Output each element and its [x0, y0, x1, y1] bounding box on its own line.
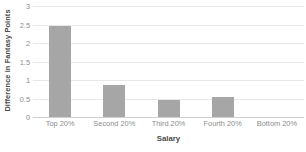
x-axis-tick-label: Fourth 20%: [204, 119, 242, 128]
x-axis-tick-labels: Top 20%Second 20%Third 20%Fourth 20%Bott…: [33, 119, 304, 133]
x-axis-tick-label: Second 20%: [93, 119, 135, 128]
bar-chart: Difference in Fantasy Points 00.511.522.…: [0, 0, 306, 152]
y-axis-tick-label: 1: [26, 76, 30, 85]
y-axis-tick-labels: 00.511.522.53: [13, 0, 32, 124]
y-axis-tick-label: 2.5: [20, 20, 30, 29]
bar: [212, 97, 234, 117]
bar: [158, 100, 180, 117]
x-axis-line: [33, 117, 304, 118]
bar: [49, 26, 71, 117]
gridline: [33, 43, 304, 44]
y-axis-tick-label: 0.5: [20, 94, 30, 103]
y-axis-tick-label: 3: [26, 2, 30, 11]
y-axis-tick-label: 0: [26, 113, 30, 122]
x-axis-tick-label: Bottom 20%: [257, 119, 297, 128]
bar: [103, 85, 125, 117]
y-axis-title: Difference in Fantasy Points: [0, 0, 14, 120]
x-axis-title: Salary: [33, 134, 304, 143]
y-axis-title-text: Difference in Fantasy Points: [3, 9, 12, 111]
x-axis-tick-label: Third 20%: [152, 119, 186, 128]
gridline: [33, 25, 304, 26]
gridline: [33, 62, 304, 63]
y-axis-tick-label: 2: [26, 39, 30, 48]
x-axis-tick-label: Top 20%: [46, 119, 75, 128]
gridline: [33, 6, 304, 7]
gridline: [33, 80, 304, 81]
plot-area: [33, 0, 304, 124]
y-axis-tick-label: 1.5: [20, 57, 30, 66]
